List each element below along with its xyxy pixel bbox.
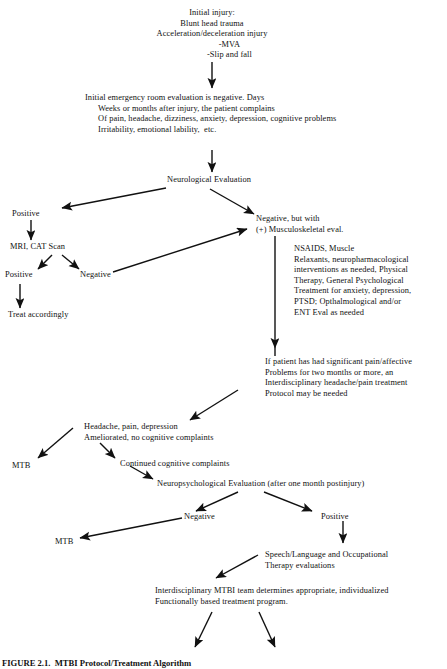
node-mri-cat-scan: MRI, CAT Scan [10,242,65,253]
node-interdisciplinary-pain-protocol: If patient has had significant pain/affe… [265,357,447,399]
node-initial-injury: Initial injury: Blunt head trauma Accele… [112,8,312,61]
node-continued-cognitive-complaints: Continued cognitive complaints [120,459,230,470]
node-neurological-evaluation: Neurological Evaluation [167,175,251,186]
edge-npnegative-to-mtb [80,518,182,538]
node-positive-neuro: Positive [12,209,40,220]
node-mri-negative: Negative [80,270,111,281]
node-treat-accordingly: Treat accordingly [8,310,68,321]
node-speech-language-therapy: Speech/Language and Occupational Therapy… [265,550,447,571]
figure-caption: FIGURE 2.1. MTBI Protocol/Treatment Algo… [2,658,191,669]
node-negative-musculoskeletal: Negative, but with (+) Musculoskeletal e… [256,214,344,235]
node-np-negative: Negative [184,512,215,523]
edge-team-to-branch-right [259,612,275,647]
edge-neuropsych-to-negative [196,492,238,511]
node-neuropsychological-evaluation: Neuropsychological Evaluation (after one… [157,479,364,490]
edge-mri-to-positive [38,255,52,269]
edge-headache-to-continued [100,443,115,458]
edge-neuropsych-to-positive [264,492,312,511]
node-nsaids-treatment-block: NSAIDS, Muscle Relaxants, neuropharmacol… [294,244,446,318]
node-headache-ameliorated: Headache, pain, depression Ameliorated, … [84,422,214,443]
edge-headache-to-mtb [38,428,73,458]
node-np-positive: Positive [321,512,349,523]
mtbi-protocol-flowchart: Initial injury: Blunt head trauma Accele… [0,0,447,669]
edge-team-to-branch-left [195,612,212,647]
edge-neuro-to-positive [62,188,166,208]
node-mtb-lower: MTB [55,537,73,548]
edge-protocol-to-headache [190,390,238,420]
node-mtb-upper: MTB [12,461,30,472]
edge-mri-to-negative [62,255,79,269]
edge-mrinegative-to-musculo [113,229,247,272]
edge-neuro-to-negative [210,189,254,214]
node-mri-positive: Positive [5,270,33,281]
node-er-evaluation: Initial emergency room evaluation is neg… [85,93,445,135]
edge-speech-to-team [216,555,258,578]
node-mtbi-team-treatment-program: Interdisciplinary MTBI team determines a… [155,586,445,607]
